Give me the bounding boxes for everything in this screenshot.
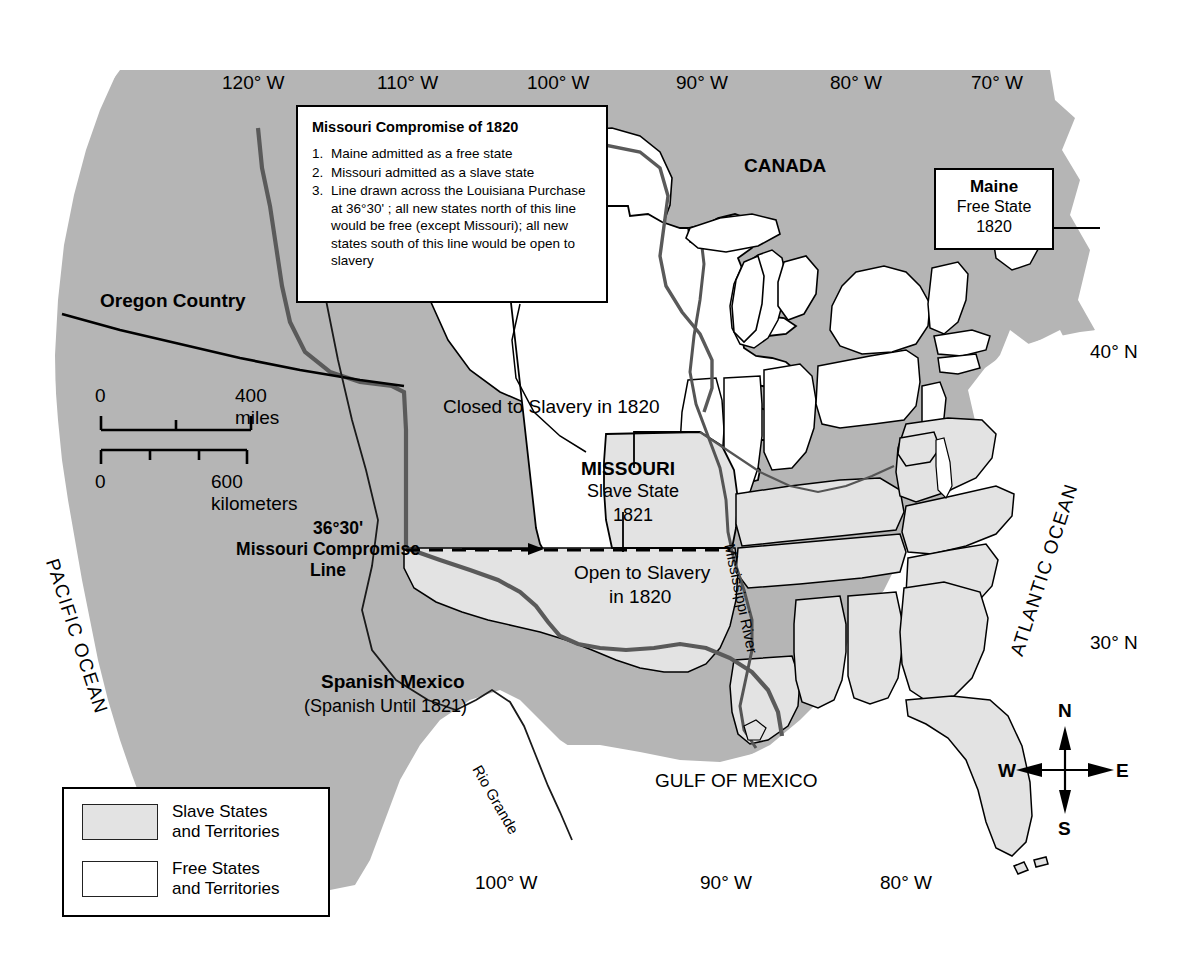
florida-keys-2 [1034, 857, 1048, 867]
label-spanish-mexico: Spanish Mexico [321, 671, 465, 693]
graticule-top-70w: 70° W [971, 72, 1023, 94]
compass-label-north: N [1058, 700, 1072, 722]
scale-bar-graphic [95, 412, 345, 480]
label-missouri-status: Slave State [587, 481, 679, 502]
compass-label-south: S [1058, 818, 1071, 840]
compass-label-east: E [1116, 760, 1129, 782]
graticule-bottom-80w: 80° W [880, 872, 932, 894]
compromise-item: 3. Line drawn across the Louisiana Purch… [312, 182, 592, 270]
maine-year: 1820 [936, 217, 1052, 237]
legend-item-free: Free States and Territories [82, 859, 279, 900]
compromise-box-list: 1. Maine admitted as a free state 2. Mis… [312, 145, 592, 270]
label-missouri-name: MISSOURI [581, 458, 675, 480]
scale-km-zero: 0 [95, 471, 106, 493]
label-compromise-line-name-2: Line [198, 560, 458, 581]
compromise-item-text: Missouri admitted as a slave state [331, 165, 534, 180]
graticule-bottom-90w: 90° W [700, 872, 752, 894]
state-alabama [848, 592, 902, 704]
compromise-item-number: 2. [312, 164, 323, 182]
graticule-top-80w: 80° W [830, 72, 882, 94]
label-compromise-line-degrees: 36°30' [218, 518, 458, 539]
label-open-to-slavery: Open to Slavery [574, 562, 710, 584]
map-figure: The Missouri Compromise of 1820 [0, 0, 1202, 973]
legend-label-slave-line2: and Territories [172, 822, 279, 842]
compromise-item: 1. Maine admitted as a free state [312, 145, 592, 163]
label-canada: CANADA [744, 155, 826, 177]
label-closed-to-slavery: Closed to Slavery in 1820 [443, 396, 660, 418]
compromise-box-heading: Missouri Compromise of 1820 [312, 119, 592, 135]
compass-label-west: W [998, 760, 1016, 782]
graticule-top-90w: 90° W [676, 72, 728, 94]
legend-swatch-free [82, 861, 158, 897]
state-mississippi [794, 596, 846, 708]
compromise-item-number: 1. [312, 145, 323, 163]
florida-keys [1014, 862, 1028, 874]
scale-miles-zero: 0 [95, 385, 106, 407]
legend-label-free: Free States and Territories [172, 859, 279, 900]
graticule-top-120w: 120° W [222, 72, 285, 94]
compromise-item: 2. Missouri admitted as a slave state [312, 164, 592, 182]
legend-label-slave-line1: Slave States [172, 802, 279, 822]
scale-km-max: 600 kilometers [211, 471, 298, 515]
legend-item-slave: Slave States and Territories [82, 802, 279, 843]
graticule-right-30n: 30° N [1090, 632, 1138, 654]
graticule-bottom-100w: 100° W [475, 872, 538, 894]
maine-status: Free State [936, 197, 1052, 217]
legend-swatch-slave [82, 804, 158, 840]
label-missouri-year: 1821 [613, 505, 653, 526]
legend-label-free-line2: and Territories [172, 879, 279, 899]
label-open-to-slavery-year: in 1820 [609, 586, 671, 608]
graticule-right-40n: 40° N [1090, 341, 1138, 363]
graticule-top-100w: 100° W [527, 72, 590, 94]
map-legend: Slave States and Territories Free States… [62, 787, 330, 917]
label-spanish-until: (Spanish Until 1821) [304, 696, 467, 717]
label-gulf-of-mexico: GULF OF MEXICO [655, 770, 818, 792]
compromise-callout-box: Missouri Compromise of 1820 1. Maine adm… [296, 105, 608, 303]
graticule-top-110w: 110° W [377, 72, 438, 94]
maine-name: Maine [936, 177, 1052, 197]
label-oregon-country: Oregon Country [100, 290, 246, 312]
compromise-item-text: Line drawn across the Louisiana Purchase… [331, 183, 585, 268]
label-compromise-line-name: Missouri Compromise [198, 539, 458, 560]
legend-label-free-line1: Free States [172, 859, 279, 879]
state-georgia [900, 582, 988, 702]
compromise-item-number: 3. [312, 182, 323, 200]
legend-label-slave: Slave States and Territories [172, 802, 279, 843]
compass-rose: N S W E [1000, 700, 1130, 840]
compromise-item-text: Maine admitted as a free state [331, 146, 513, 161]
maine-callout-box: Maine Free State 1820 [934, 168, 1054, 250]
